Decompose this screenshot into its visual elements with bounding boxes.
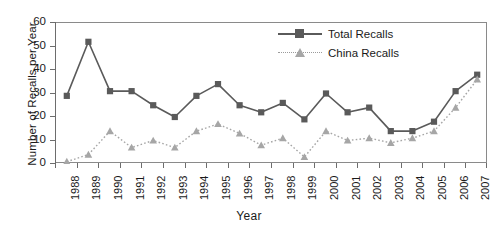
data-point-1999 (301, 153, 309, 160)
legend-triangle-marker-icon (278, 47, 322, 59)
x-tick-label-1994: 1994 (199, 176, 210, 200)
y-tick-label-50: 50 (24, 40, 46, 52)
y-axis-tick-mark (50, 116, 55, 117)
data-point-1990 (106, 127, 114, 134)
x-tick-label-1997: 1997 (264, 176, 275, 200)
x-tick-label-1996: 1996 (243, 176, 254, 200)
data-point-1998 (279, 134, 287, 141)
data-point-1989 (85, 39, 91, 45)
x-tick-label-2004: 2004 (415, 176, 426, 200)
data-point-2006 (453, 88, 459, 94)
y-tick-label-20: 20 (24, 110, 46, 122)
data-point-1992 (149, 137, 157, 144)
data-point-1995 (214, 120, 222, 127)
data-point-1993 (172, 114, 178, 120)
data-point-2003 (388, 128, 394, 134)
data-point-2001 (344, 137, 352, 144)
x-tick-label-1990: 1990 (113, 176, 124, 200)
y-tick-label-30: 30 (24, 87, 46, 99)
x-tick-label-1988: 1988 (70, 176, 81, 200)
x-tick-label-2000: 2000 (329, 176, 340, 200)
chart-legend: Total Recalls China Recalls (278, 24, 428, 62)
data-point-1999 (301, 116, 307, 122)
legend-label-china-recalls: China Recalls (328, 47, 399, 59)
data-point-1995 (215, 81, 221, 87)
data-point-2000 (323, 90, 329, 96)
data-point-2006 (452, 104, 460, 111)
data-point-1997 (257, 141, 265, 148)
y-axis-tick-mark (50, 46, 55, 47)
legend-label-total-recalls: Total Recalls (328, 28, 393, 40)
data-point-2004 (409, 128, 415, 134)
data-point-1996 (237, 102, 243, 108)
y-tick-label-10: 10 (24, 134, 46, 146)
data-point-2000 (322, 127, 330, 134)
data-point-1992 (150, 102, 156, 108)
x-tick-label-1992: 1992 (156, 176, 167, 200)
y-axis-tick-mark (50, 93, 55, 94)
x-tick-label-2005: 2005 (437, 176, 448, 200)
data-point-2002 (366, 105, 372, 111)
x-tick-label-2006: 2006 (459, 176, 470, 200)
data-point-1997 (258, 109, 264, 115)
y-axis-tick-mark (50, 140, 55, 141)
data-point-1994 (193, 93, 199, 99)
data-point-2004 (409, 134, 417, 141)
y-tick-label-60: 60 (24, 16, 46, 28)
data-point-1988 (64, 93, 70, 99)
y-tick-label-40: 40 (24, 63, 46, 75)
data-point-1998 (280, 100, 286, 106)
y-axis-tick-labels: 0102030405060 (22, 0, 46, 232)
y-axis-tick-mark (50, 22, 55, 23)
data-point-1991 (129, 88, 135, 94)
legend-item-china-recalls: China Recalls (278, 43, 428, 62)
x-tick-label-1993: 1993 (178, 176, 189, 200)
x-tick-label-2002: 2002 (372, 176, 383, 200)
series-china-recalls (63, 76, 481, 164)
x-tick-label-1991: 1991 (135, 176, 146, 200)
x-tick-label-2007: 2007 (480, 176, 491, 200)
data-point-1990 (107, 88, 113, 94)
x-tick-label-2001: 2001 (351, 176, 362, 200)
data-point-1993 (171, 144, 179, 151)
legend-square-marker-icon (278, 28, 322, 40)
y-axis-tick-mark (50, 69, 55, 70)
data-point-1989 (85, 151, 93, 158)
data-point-2005 (431, 119, 437, 125)
chart-figure: Number of Recalls per Year 0102030405060… (0, 0, 498, 232)
x-axis-title: Year (0, 209, 498, 223)
x-tick-label-1995: 1995 (221, 176, 232, 200)
data-point-1996 (236, 130, 244, 137)
x-tick-label-1989: 1989 (91, 176, 102, 200)
x-tick-label-1999: 1999 (307, 176, 318, 200)
data-point-2001 (345, 109, 351, 115)
x-tick-label-2003: 2003 (394, 176, 405, 200)
data-point-2002 (365, 134, 373, 141)
x-axis-tick-labels: 1988198919901991199219931994199519961997… (55, 168, 487, 208)
y-axis-tick-mark (50, 163, 55, 164)
y-tick-label-0: 0 (24, 157, 46, 169)
legend-item-total-recalls: Total Recalls (278, 24, 428, 43)
x-tick-label-1998: 1998 (286, 176, 297, 200)
